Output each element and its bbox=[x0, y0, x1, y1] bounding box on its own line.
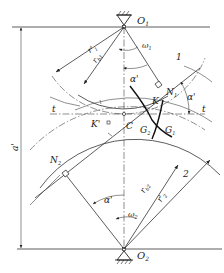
label-k: K bbox=[151, 96, 160, 106]
label-rb2: rb2 bbox=[138, 181, 152, 195]
label-c: C bbox=[126, 121, 133, 131]
gear-meshing-diagram: O1 O2 ω1 ω2 1 2 r'1 rb1 rb2 r'2 α' α' α'… bbox=[0, 0, 224, 273]
label-t-left: t bbox=[52, 104, 56, 114]
label-r1-prime: r'1 bbox=[86, 42, 99, 55]
right-angle-n1 bbox=[155, 81, 162, 88]
gear2-circles bbox=[30, 98, 220, 188]
label-alpha-top: α' bbox=[130, 74, 139, 84]
gear1-radii bbox=[56, 27, 161, 85]
label-alpha-right: α' bbox=[187, 92, 196, 102]
label-o1: O1 bbox=[137, 15, 149, 27]
label-r2-prime: r'2 bbox=[155, 191, 168, 204]
label-alpha-bottom: α' bbox=[104, 195, 113, 205]
contact-point-c bbox=[122, 112, 125, 115]
label-g1: G1 bbox=[165, 125, 175, 136]
label-n1: N1 bbox=[165, 87, 177, 98]
label-n2: N2 bbox=[49, 155, 61, 166]
omega1-arrow bbox=[119, 47, 138, 50]
label-gear1: 1 bbox=[176, 52, 182, 62]
label-omega1: ω1 bbox=[142, 41, 152, 51]
pivot-o1-icon bbox=[116, 11, 132, 29]
label-center-distance: a' bbox=[10, 143, 20, 151]
label-omega2: ω2 bbox=[128, 210, 138, 220]
label-t-right: t bbox=[202, 104, 206, 114]
label-o2: O2 bbox=[137, 250, 149, 262]
pivot-o2-icon bbox=[115, 248, 133, 265]
gear1-circles bbox=[50, 58, 212, 114]
label-k-prime: K' bbox=[90, 119, 100, 129]
label-g2: G2 bbox=[140, 125, 150, 136]
angle-arc-top bbox=[124, 65, 147, 69]
frame-lines bbox=[12, 27, 222, 249]
label-gear2: 2 bbox=[182, 169, 189, 179]
